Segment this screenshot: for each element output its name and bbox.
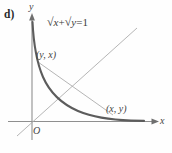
y-axis-label: y (29, 2, 33, 12)
figure-container: d) √x+√y=1 (y, x) (x, y) x y O (0, 0, 172, 153)
radical-symbol-1: √ (47, 15, 54, 29)
part-label: d) (4, 9, 14, 21)
x-axis-label: x (160, 116, 164, 126)
equation-right-side: 1 (82, 16, 88, 28)
point-label-xy: (x, y) (106, 104, 127, 114)
x-axis-arrow-icon (152, 119, 160, 125)
equation-annotation: √x+√y=1 (47, 16, 88, 28)
y-axis-arrow-icon (29, 13, 35, 21)
origin-label: O (33, 126, 40, 136)
point-label-yx: (y, x) (36, 50, 56, 60)
